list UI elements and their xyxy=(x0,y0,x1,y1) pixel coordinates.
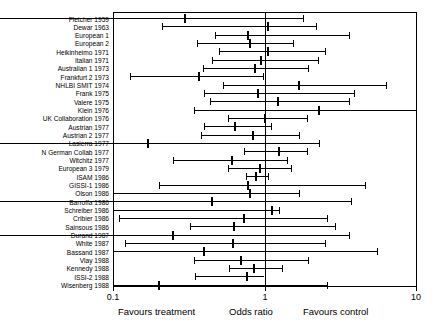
ci-upper-cap xyxy=(416,107,417,114)
ci-upper-cap xyxy=(308,257,309,264)
confidence-interval-line xyxy=(194,110,416,111)
confidence-interval-line xyxy=(0,201,351,202)
ci-upper-cap xyxy=(349,32,350,39)
ci-lower-cap xyxy=(204,123,205,130)
ci-lower-cap xyxy=(113,248,114,255)
confidence-interval-line xyxy=(113,251,377,252)
x-tick-high xyxy=(416,287,417,291)
ci-upper-cap xyxy=(349,98,350,105)
ci-lower-cap xyxy=(113,207,114,214)
confidence-interval-line xyxy=(228,118,307,119)
favours-control-caption: Favours control xyxy=(303,306,368,317)
ci-rows-layer xyxy=(0,0,434,327)
confidence-interval-line xyxy=(223,85,386,86)
confidence-interval-line xyxy=(212,60,318,61)
ci-upper-cap xyxy=(325,48,326,55)
confidence-interval-line xyxy=(244,151,307,152)
ci-upper-cap xyxy=(268,173,269,180)
ci-lower-cap xyxy=(228,165,229,172)
ci-upper-cap xyxy=(349,232,350,239)
ci-lower-cap xyxy=(130,73,131,80)
confidence-interval-line xyxy=(201,135,300,136)
ci-lower-cap xyxy=(246,173,247,180)
x-tick-label-low: 0.1 xyxy=(97,292,129,302)
ci-lower-cap xyxy=(194,107,195,114)
confidence-interval-line xyxy=(219,51,325,52)
confidence-interval-line xyxy=(195,276,264,277)
ci-upper-cap xyxy=(307,148,308,155)
ci-upper-cap xyxy=(335,223,336,230)
ci-lower-cap xyxy=(190,223,191,230)
ci-lower-cap xyxy=(203,65,204,72)
confidence-interval-line xyxy=(130,76,263,77)
ci-lower-cap xyxy=(159,182,160,189)
confidence-interval-line xyxy=(173,160,286,161)
confidence-interval-line xyxy=(215,35,349,36)
confidence-interval-line xyxy=(204,93,354,94)
ci-upper-cap xyxy=(291,165,292,172)
ci-upper-cap xyxy=(303,15,304,22)
odds-ratio-caption: Odds ratio xyxy=(229,306,273,317)
ci-lower-cap xyxy=(119,215,120,222)
ci-upper-cap xyxy=(307,115,308,122)
ci-row xyxy=(0,281,434,290)
ci-upper-cap xyxy=(327,282,328,289)
confidence-interval-line xyxy=(119,218,327,219)
ci-upper-cap xyxy=(351,198,352,205)
ci-upper-cap xyxy=(299,190,300,197)
ci-lower-cap xyxy=(215,32,216,39)
ci-lower-cap xyxy=(195,273,196,280)
ci-upper-cap xyxy=(386,82,387,89)
confidence-interval-line xyxy=(194,260,309,261)
ci-lower-cap xyxy=(113,190,114,197)
ci-upper-cap xyxy=(354,90,355,97)
confidence-interval-line xyxy=(229,268,282,269)
confidence-interval-line xyxy=(190,226,335,227)
ci-upper-cap xyxy=(308,65,309,72)
x-tick-mid xyxy=(265,287,266,291)
ci-upper-cap xyxy=(318,57,319,64)
ci-lower-cap xyxy=(212,57,213,64)
confidence-interval-line xyxy=(0,143,319,144)
ci-lower-cap xyxy=(210,98,211,105)
ci-upper-cap xyxy=(282,265,283,272)
confidence-interval-line xyxy=(204,126,271,127)
confidence-interval-line xyxy=(210,101,348,102)
x-tick-label-mid: 1 xyxy=(249,292,281,302)
ci-lower-cap xyxy=(173,157,174,164)
ci-lower-cap xyxy=(223,82,224,89)
ci-lower-cap xyxy=(162,23,163,30)
favours-treatment-caption: Favours treatment xyxy=(118,306,195,317)
confidence-interval-line xyxy=(162,26,317,27)
ci-lower-cap xyxy=(197,40,198,47)
ci-lower-cap xyxy=(244,148,245,155)
ci-upper-cap xyxy=(287,157,288,164)
ci-upper-cap xyxy=(293,40,294,47)
x-tick-low xyxy=(113,287,114,291)
ci-lower-cap xyxy=(228,115,229,122)
ci-lower-cap xyxy=(204,90,205,97)
ci-lower-cap xyxy=(125,240,126,247)
ci-upper-cap xyxy=(279,207,280,214)
x-tick-label-high: 10 xyxy=(400,292,432,302)
ci-upper-cap xyxy=(271,123,272,130)
confidence-interval-line xyxy=(0,235,349,236)
ci-lower-cap xyxy=(201,132,202,139)
ci-lower-cap xyxy=(219,48,220,55)
ci-upper-cap xyxy=(319,140,320,147)
ci-upper-cap xyxy=(365,182,366,189)
ci-upper-cap xyxy=(265,273,266,280)
confidence-interval-line xyxy=(125,243,325,244)
ci-upper-cap xyxy=(299,132,300,139)
confidence-interval-line xyxy=(197,43,293,44)
ci-lower-cap xyxy=(229,265,230,272)
ci-upper-cap xyxy=(316,23,317,30)
confidence-interval-line xyxy=(113,210,279,211)
odds-ratio-point-estimate xyxy=(158,281,160,290)
forest-plot-figure: Fletcher 1959Dewar 1963European 1Europea… xyxy=(0,0,434,327)
ci-upper-cap xyxy=(377,248,378,255)
ci-lower-cap xyxy=(194,257,195,264)
confidence-interval-line xyxy=(113,285,327,286)
ci-upper-cap xyxy=(325,240,326,247)
confidence-interval-line xyxy=(159,185,365,186)
